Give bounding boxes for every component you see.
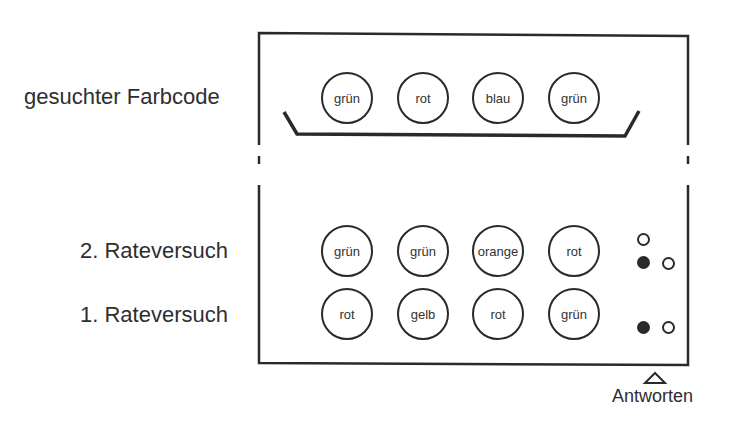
guess-1-feedback-white-peg — [662, 321, 675, 334]
answers-label: Antworten — [612, 386, 693, 407]
secret-code-label: gesuchter Farbcode — [24, 84, 220, 110]
board-bottom-border — [259, 185, 688, 365]
guess-2-feedback-white-peg — [662, 257, 675, 270]
secret-peg-1: grün — [321, 72, 373, 124]
guess-2-peg-1: grün — [321, 225, 373, 277]
answer-pointer-icon — [645, 373, 665, 383]
secret-peg-2: rot — [397, 72, 449, 124]
guess-1-feedback-black-peg — [637, 321, 650, 334]
secret-peg-3: blau — [472, 72, 524, 124]
guess-1-peg-4: grün — [548, 288, 600, 340]
board-outline — [0, 0, 731, 422]
guess-2-label: 2. Rateversuch — [80, 238, 228, 264]
guess-2-feedback-black-peg — [637, 256, 650, 269]
guess-1-label: 1. Rateversuch — [80, 302, 228, 328]
guess-2-peg-4: rot — [548, 225, 600, 277]
guess-2-peg-3: orange — [472, 225, 524, 277]
guess-1-peg-3: rot — [472, 288, 524, 340]
guess-1-peg-2: gelb — [397, 288, 449, 340]
secret-peg-4: grün — [548, 72, 600, 124]
guess-1-peg-1: rot — [321, 288, 373, 340]
guess-2-peg-2: grün — [397, 225, 449, 277]
guess-2-feedback-white-peg — [637, 233, 650, 246]
